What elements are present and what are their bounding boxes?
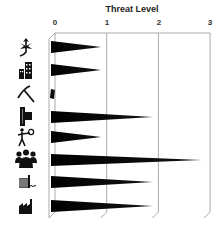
grid-lines [49,33,210,218]
bar-worker [51,131,102,143]
bar-industry [51,200,153,212]
grid-line-2 [152,33,158,218]
bar-buildings [51,64,102,76]
person-worker-icon [14,127,38,147]
crowd-icon [14,149,38,169]
grid-line-3 [204,33,210,218]
city-buildings-icon [14,60,38,80]
water-wall-icon [14,172,38,192]
bar-mining [50,89,55,99]
grid-line-0 [49,33,55,218]
pickaxe-icon [14,84,38,104]
leaf-icon [14,37,38,57]
factory-icon [14,196,38,216]
bar-plant [51,41,102,53]
bar-water-pollution [51,176,153,188]
bars [50,41,202,212]
logging-machine-icon [14,106,38,126]
bar-people [51,154,202,166]
bar-logging [51,111,153,123]
grid-line-1 [101,33,107,218]
